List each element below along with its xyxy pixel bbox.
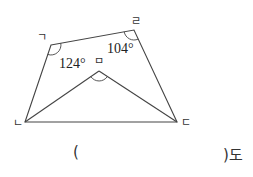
answer-open-paren: ( — [73, 143, 79, 161]
vertex-label-nieun: ㄴ — [13, 117, 23, 130]
answer-close-paren-unit: )도 — [223, 143, 243, 164]
vertex-label-digeut: ㄷ — [181, 116, 191, 129]
angle-value-rieul: 104° — [107, 41, 134, 56]
angle-arc-mieum — [91, 77, 108, 81]
answer-blank[interactable] — [85, 143, 220, 163]
vertex-label-rieul: ㄹ — [131, 15, 141, 28]
segment-nieun-mieum — [25, 71, 99, 122]
angle-value-giyeok: 124° — [59, 56, 86, 71]
angle-arc-rieul — [124, 32, 138, 40]
vertex-label-giyeok: ㄱ — [37, 31, 47, 44]
quadrilateral — [25, 30, 177, 122]
vertex-label-mieum: ㅁ — [94, 55, 104, 68]
